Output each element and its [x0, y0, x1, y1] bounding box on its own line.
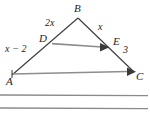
segment-ac — [12, 72, 128, 75]
length-label-ad: x − 2 — [5, 44, 27, 54]
ruled-line-1 — [0, 95, 148, 96]
length-label-be: x — [98, 22, 103, 32]
figure-canvas — [0, 0, 150, 125]
ruled-line-2 — [0, 108, 148, 109]
point-label-d: D — [39, 33, 47, 44]
length-label-bd: 2x — [45, 18, 55, 28]
length-label-ec: 3 — [123, 45, 128, 55]
point-label-c: C — [136, 71, 143, 82]
point-label-a: A — [6, 76, 13, 87]
point-label-b: B — [74, 3, 81, 14]
segment-de — [52, 44, 102, 47]
point-label-e: E — [113, 36, 120, 47]
geometry-figure: A B C D E 2x x x − 2 3 — [0, 0, 150, 125]
ac-arrow-icon — [127, 68, 136, 77]
